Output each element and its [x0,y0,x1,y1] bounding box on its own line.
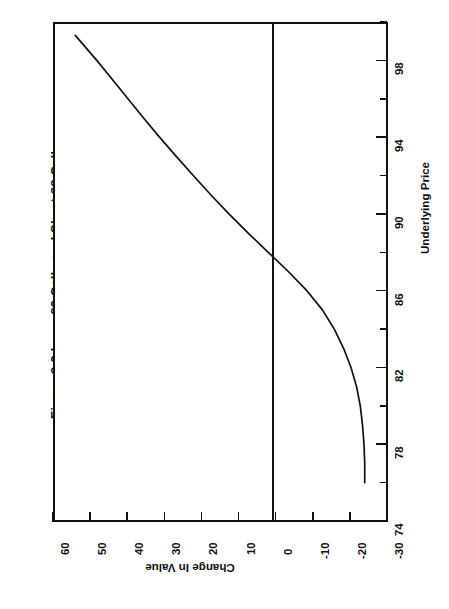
price-tick-label: 86 [392,266,406,306]
price-tick [380,482,387,484]
value-tick [201,512,203,522]
value-tick-label: -10 [318,519,332,559]
value-tick [275,512,277,522]
price-tick-label: 82 [392,342,406,382]
value-tick [386,512,388,522]
price-tick [376,60,387,62]
value-tick [89,512,91,522]
value-tick [349,512,351,522]
value-tick-label: 60 [58,515,72,555]
price-tick-label: 94 [392,112,406,152]
price-tick [376,136,387,138]
value-tick [126,512,128,522]
value-tick [164,512,166,522]
price-tick-label: 98 [392,35,406,75]
value-tick-label: 20 [206,515,220,555]
price-tick [380,21,387,23]
value-axis-title: Change In Value [110,560,270,576]
chart-figure: Figure 8-9 Long 86 Calls and Short 88 Ca… [0,0,449,609]
price-tick-label: 78 [392,419,406,459]
value-tick [312,512,314,522]
figure-page: Figure 8-9 Long 86 Calls and Short 88 Ca… [0,0,449,609]
value-tick-label: 30 [169,515,183,555]
value-tick-label: 50 [95,515,109,555]
value-tick-label: -20 [355,519,369,559]
price-tick [380,98,387,100]
value-tick-label: 10 [244,515,258,555]
price-tick [380,252,387,254]
price-tick [376,367,387,369]
payoff-curve [53,22,388,522]
price-tick [380,175,387,177]
price-tick [376,290,387,292]
value-tick-label: 40 [132,515,146,555]
value-tick-label: -30 [392,519,406,559]
payoff-curve-path [75,35,364,482]
value-tick [238,512,240,522]
price-tick-label: 90 [392,189,406,229]
price-axis-title: Underlying Price [417,148,433,268]
value-tick [52,512,54,522]
price-tick [376,213,387,215]
price-tick [376,443,387,445]
price-tick [380,328,387,330]
value-tick-label: 0 [281,515,295,555]
price-tick [380,405,387,407]
